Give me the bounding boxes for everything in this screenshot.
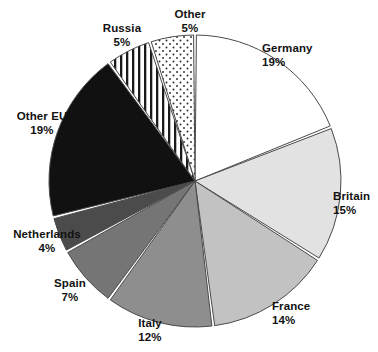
slice-label-germany: Germany 19% <box>262 42 313 69</box>
slice-label-netherlands: Netherlands 4% <box>0 228 94 255</box>
slice-label-germany-name: Germany <box>262 42 313 54</box>
slice-label-spain-name: Spain <box>54 277 86 289</box>
slice-label-other-eu-value: 19% <box>0 124 84 138</box>
slice-label-italy-name: Italy <box>138 317 162 329</box>
slice-label-netherlands-value: 4% <box>0 242 94 256</box>
slice-label-other: Other 5% <box>0 8 378 35</box>
slice-label-other-eu: Other EU 19% <box>0 110 84 137</box>
slice-label-russia-value: 5% <box>0 36 244 50</box>
slice-label-germany-value: 19% <box>262 56 313 70</box>
slice-label-spain-value: 7% <box>0 291 140 305</box>
pie-chart-figure: Germany 19% Britain 15% France 14% Italy… <box>0 0 378 352</box>
slice-label-italy: Italy 12% <box>0 317 300 344</box>
slice-label-britain-value: 15% <box>333 204 370 218</box>
slice-label-britain: Britain 15% <box>333 190 370 217</box>
slice-label-other-value: 5% <box>0 22 378 36</box>
slice-label-other-eu-name: Other EU <box>17 110 68 122</box>
slice-label-spain: Spain 7% <box>0 277 140 304</box>
slice-label-italy-value: 12% <box>0 331 300 345</box>
slice-label-other-name: Other <box>174 8 205 20</box>
slice-label-netherlands-name: Netherlands <box>13 228 81 240</box>
slice-label-britain-name: Britain <box>333 190 370 202</box>
slice-label-france-name: France <box>272 300 310 312</box>
